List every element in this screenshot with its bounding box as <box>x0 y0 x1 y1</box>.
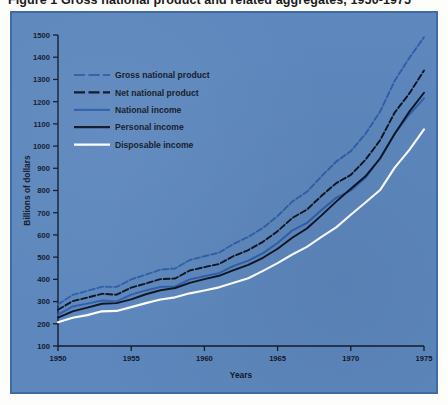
y-tick-label: 1100 <box>34 120 50 129</box>
legend-label: Disposable income <box>115 140 194 150</box>
y-tick-label: 1400 <box>33 53 50 62</box>
y-tick-label: 900 <box>37 164 50 173</box>
legend-label: Net national product <box>115 88 199 98</box>
x-tick-label: 1970 <box>342 354 359 363</box>
series-line <box>58 71 424 310</box>
x-tick-label: 1965 <box>269 354 287 363</box>
legend-label: National income <box>115 105 182 115</box>
figure-container: Figure 1 Gross national product and rela… <box>0 0 448 405</box>
line-chart: 1002003004005006007008009001000110012001… <box>12 13 436 392</box>
y-tick-label: 500 <box>37 253 50 262</box>
y-tick-label: 800 <box>37 186 50 195</box>
y-tick-label: 200 <box>37 320 50 329</box>
y-tick-label: 400 <box>37 275 50 284</box>
x-tick-label: 1950 <box>50 354 67 363</box>
y-tick-label: 600 <box>37 231 50 240</box>
plot-area: 1002003004005006007008009001000110012001… <box>12 13 436 392</box>
x-tick-label: 1955 <box>123 354 141 363</box>
y-axis: 1002003004005006007008009001000110012001… <box>33 31 58 351</box>
y-tick-label: 1000 <box>33 142 50 151</box>
series-line <box>58 93 424 318</box>
legend-label: Gross national product <box>115 70 210 80</box>
y-tick-label: 300 <box>37 297 50 306</box>
y-tick-label: 1300 <box>33 75 50 84</box>
legend-label: Personal income <box>115 122 184 132</box>
figure-title-strip: Figure 1 Gross national product and rela… <box>0 0 448 11</box>
series-line <box>58 98 424 314</box>
x-tick-label: 1975 <box>416 354 434 363</box>
series-lines <box>58 37 424 322</box>
y-axis-title: Billions of dollars <box>22 155 32 226</box>
y-tick-label: 100 <box>37 342 50 351</box>
x-axis-title: Years <box>230 370 253 380</box>
y-tick-label: 1200 <box>33 98 50 107</box>
chart-legend: Gross national productNet national produ… <box>74 70 210 150</box>
y-tick-label: 700 <box>37 209 50 218</box>
y-tick-label: 1500 <box>33 31 50 40</box>
chart-panel: 1002003004005006007008009001000110012001… <box>10 11 438 394</box>
series-line <box>58 129 424 322</box>
x-tick-label: 1960 <box>196 354 213 363</box>
page-title: Figure 1 Gross national product and rela… <box>8 0 411 7</box>
x-axis: 195019551960196519701975 <box>50 346 434 363</box>
